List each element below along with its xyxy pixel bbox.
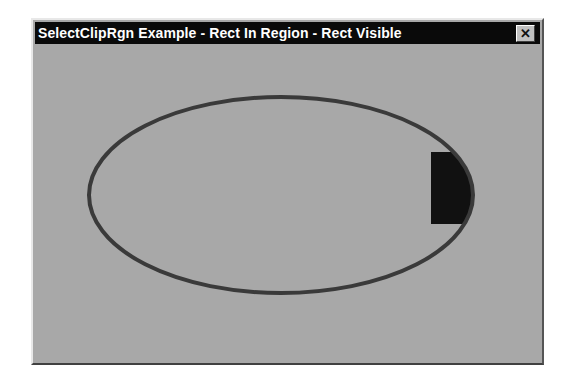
clip-region-ellipse (89, 97, 473, 293)
drawing-canvas (0, 0, 573, 386)
